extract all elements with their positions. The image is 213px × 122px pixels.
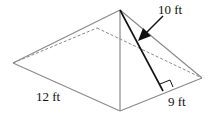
right-angle-marker: [160, 80, 173, 87]
pyramid-diagram: 10 ft 12 ft 9 ft: [0, 0, 213, 122]
base-width-label: 9 ft: [168, 94, 186, 109]
base-length-label: 12 ft: [36, 89, 61, 104]
hidden-edges: [13, 28, 202, 78]
slant-height-label: 10 ft: [158, 2, 183, 17]
